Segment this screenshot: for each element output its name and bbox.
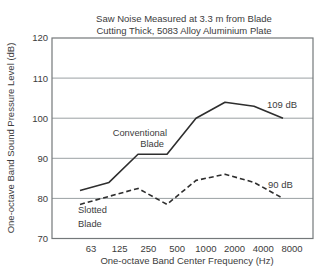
x-axis-tick-labels: 631252505001000200040008000 <box>86 243 303 254</box>
conventional-blade-label-line2: Blade <box>140 139 164 149</box>
y-axis-label: One-octave Band Sound Pressure Level (dB… <box>5 43 16 234</box>
x-tick-label-250: 250 <box>140 243 156 254</box>
y-tick-label-90: 90 <box>37 153 48 164</box>
y-tick-label-70: 70 <box>37 233 48 244</box>
x-tick-label-4000: 4000 <box>253 243 274 254</box>
x-tick-label-1000: 1000 <box>195 243 216 254</box>
slotted-blade-label-line1: Slotted <box>78 205 107 215</box>
annotation-109-db: 109 dB <box>267 99 297 110</box>
x-tick-label-500: 500 <box>169 243 185 254</box>
saw-noise-line-chart: 120110100908070 631252505001000200040008… <box>0 0 328 278</box>
saw-noise-chart-figure: 120110100908070 631252505001000200040008… <box>0 0 328 278</box>
y-tick-label-110: 110 <box>33 73 48 84</box>
x-tick-label-2000: 2000 <box>224 243 245 254</box>
conventional-blade-label-line1: Conventional <box>113 128 167 138</box>
slotted-blade-label-line2: Blade <box>78 219 102 229</box>
x-axis-label: One-octave Band Center Frequency (Hz) <box>100 255 273 266</box>
x-tick-label-63: 63 <box>86 243 97 254</box>
y-tick-label-120: 120 <box>32 32 48 43</box>
annotation-90-db: 90 dB <box>268 179 293 190</box>
conventional-blade-line <box>80 102 283 190</box>
y-tick-label-80: 80 <box>37 193 48 204</box>
y-axis-tick-labels: 120110100908070 <box>32 32 48 244</box>
chart-title-line2: Cutting Thick, 5083 Alloy Aluminium Plat… <box>96 25 271 36</box>
x-tick-label-125: 125 <box>112 243 128 254</box>
slotted-blade-line <box>80 174 283 204</box>
y-tick-label-100: 100 <box>32 113 48 124</box>
x-tick-label-8000: 8000 <box>281 243 302 254</box>
chart-title-line1: Saw Noise Measured at 3.3 m from Blade <box>96 13 272 24</box>
